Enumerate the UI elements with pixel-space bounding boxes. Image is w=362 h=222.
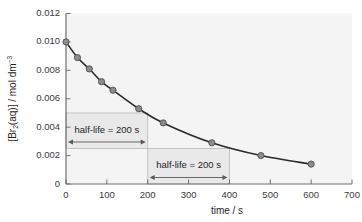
y-tick-label: 0.006 — [36, 92, 60, 103]
y-tick-label: 0.008 — [36, 64, 60, 75]
x-tick-label: 0 — [63, 189, 68, 200]
data-point — [86, 66, 92, 72]
x-tick-label: 700 — [344, 189, 360, 200]
data-point — [110, 87, 116, 93]
y-tick-label: 0.010 — [36, 35, 60, 46]
y-tick-label: 0 — [55, 178, 60, 189]
x-tick-label: 200 — [140, 189, 156, 200]
x-tick-label: 100 — [99, 189, 115, 200]
x-tick-label: 600 — [303, 189, 319, 200]
data-point — [258, 152, 264, 158]
x-tick-label: 500 — [262, 189, 278, 200]
bromine-concentration-decay-chart: half-life = 200 shalf-life = 200 s010020… — [0, 0, 362, 222]
annotation-half-life-2: half-life = 200 s — [148, 148, 230, 184]
data-point — [63, 39, 69, 45]
y-tick-label: 0.012 — [36, 7, 60, 18]
data-point — [98, 79, 104, 85]
x-tick-label: 300 — [181, 189, 197, 200]
data-point — [74, 54, 80, 60]
annotation-label: half-life = 200 s — [75, 124, 140, 135]
y-tick-label: 0.002 — [36, 149, 60, 160]
data-point — [308, 161, 314, 167]
annotation-label: half-life = 200 s — [156, 159, 221, 170]
annotation-half-life-1: half-life = 200 s — [66, 113, 148, 149]
data-point — [136, 106, 142, 112]
y-tick-label: 0.004 — [36, 121, 60, 132]
data-point — [209, 140, 215, 146]
chart-canvas: half-life = 200 shalf-life = 200 s010020… — [0, 0, 362, 222]
y-axis-title: [Br2(aq)] / mol dm−3 — [6, 56, 19, 142]
x-axis-title: time / s — [211, 205, 243, 216]
data-point — [160, 120, 166, 126]
x-tick-label: 400 — [221, 189, 237, 200]
